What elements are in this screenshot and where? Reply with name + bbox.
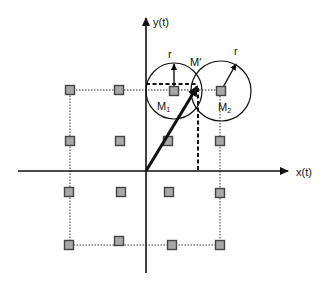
- signal-vector: [146, 87, 197, 171]
- constellation-point: [216, 137, 225, 146]
- diagram-canvas: M1M2rr x(t) y(t) M′: [0, 0, 324, 285]
- axes: [18, 18, 288, 273]
- constellation-point: [115, 237, 124, 246]
- constellation-points: [65, 86, 226, 250]
- radius-label-1: r: [168, 48, 172, 60]
- y-axis-label: y(t): [153, 16, 169, 28]
- constellation-point: [165, 188, 174, 197]
- constellation-point: [216, 241, 225, 250]
- constellation-point: [116, 137, 125, 146]
- constellation-point: [65, 241, 74, 250]
- constellation-point: [115, 86, 124, 95]
- x-axis-label: x(t): [296, 166, 312, 178]
- circle-label-m1: M1: [157, 100, 170, 113]
- signal-vector-arrow: [146, 87, 197, 171]
- constellation-point: [216, 189, 225, 198]
- constellation-point: [217, 87, 226, 96]
- constellation-point: [66, 137, 75, 146]
- radius-label-2: r: [234, 45, 238, 57]
- constellation-point: [65, 188, 74, 197]
- constellation-point: [170, 87, 179, 96]
- constellation-point: [168, 241, 177, 250]
- constellation-point: [117, 188, 126, 197]
- constellation-point: [66, 86, 75, 95]
- vector-label-m-prime: M′: [190, 56, 201, 68]
- labels: x(t) y(t) M′: [153, 16, 312, 178]
- constellation-diagram: M1M2rr x(t) y(t) M′: [0, 0, 324, 285]
- circle-label-m2: M2: [218, 101, 231, 114]
